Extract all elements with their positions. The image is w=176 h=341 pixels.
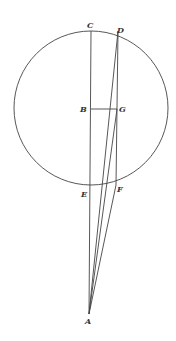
segment-DF bbox=[116, 31, 118, 185]
segment-AG bbox=[89, 109, 117, 314]
label-G: G bbox=[119, 105, 126, 113]
diagram-svg bbox=[0, 0, 176, 341]
label-E: E bbox=[81, 190, 87, 198]
segment-AC bbox=[89, 31, 91, 314]
segment-AD bbox=[89, 31, 118, 314]
label-C: C bbox=[87, 21, 93, 29]
label-A: A bbox=[85, 317, 91, 325]
geometry-diagram: C D B G E F A bbox=[0, 0, 176, 341]
segment-AF bbox=[89, 185, 116, 314]
label-B: B bbox=[80, 105, 87, 113]
label-D: D bbox=[117, 26, 124, 34]
label-F: F bbox=[117, 185, 123, 193]
